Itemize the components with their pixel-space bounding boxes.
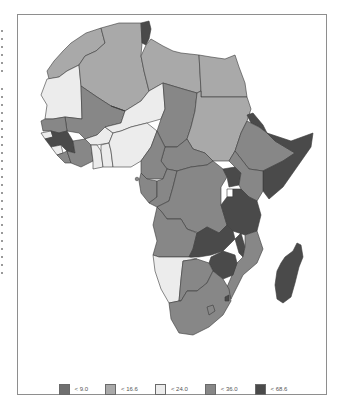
legend-swatch [155,384,166,395]
region-madagascar[interactable] [275,243,303,303]
legend-item-2: < 16.6 [105,384,138,395]
legend-label: < 24.0 [171,386,188,392]
legend-item-3: < 24.0 [155,384,188,395]
legend-label: < 36.0 [221,386,238,392]
legend-label: < 9.0 [75,386,89,392]
legend-item-4: < 36.0 [205,384,238,395]
legend-swatch [255,384,266,395]
legend-item-5: < 68.6 [255,384,288,395]
region-rwanda[interactable] [227,189,233,197]
map-frame: < 9.0 < 16.6 < 24.0 < 36.0 < 68.6 [17,14,327,395]
legend-label: < 68.6 [271,386,288,392]
legend-swatch [105,384,116,395]
region-libya[interactable] [141,39,201,93]
legend-swatch [205,384,216,395]
legend-swatch [59,384,70,395]
legend-item-1: < 9.0 [59,384,89,395]
legend-label: < 16.6 [121,386,138,392]
africa-map [18,15,328,396]
map-legend: < 9.0 < 16.6 < 24.0 < 36.0 < 68.6 [18,379,328,399]
region-senegal[interactable] [41,117,67,133]
cropped-text-marks [1,30,5,280]
island-bioko [135,177,139,181]
region-egypt[interactable] [199,55,247,97]
